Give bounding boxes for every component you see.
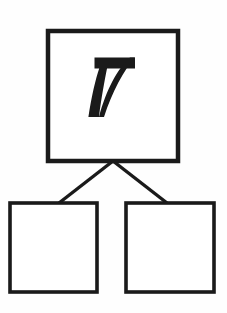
number-bond-worksheet: 7 <box>0 0 227 313</box>
whole-box[interactable] <box>48 31 178 161</box>
part-right-box[interactable] <box>126 203 214 292</box>
connector-left-line <box>59 161 113 203</box>
connector-right-line <box>113 161 167 203</box>
number-bond-diagram <box>0 0 227 313</box>
part-left-box[interactable] <box>10 203 97 292</box>
